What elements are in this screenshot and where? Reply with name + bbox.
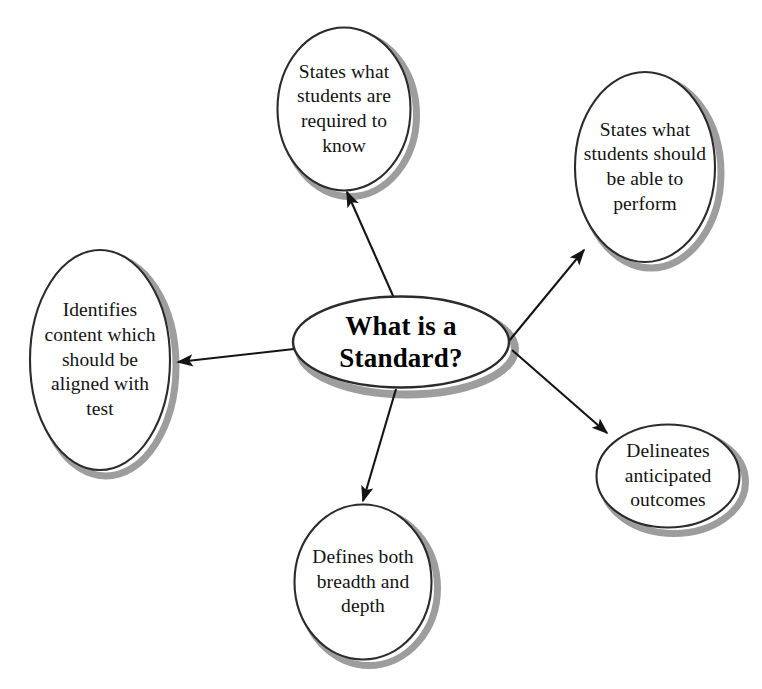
- ellipse-center-node[interactable]: [293, 297, 509, 388]
- ellipse-defines-breadth-depth[interactable]: [295, 505, 432, 660]
- ellipse-delineates-outcomes[interactable]: [597, 425, 740, 528]
- ellipse-states-able-to-perform[interactable]: [575, 72, 715, 262]
- arrow-to-states-able-to-perform[interactable]: [509, 250, 584, 341]
- arrow-to-identifies-content-aligned[interactable]: [178, 349, 294, 362]
- arrow-to-delineates-outcomes[interactable]: [512, 350, 607, 433]
- ellipse-states-required-to-know[interactable]: [278, 28, 411, 191]
- concept-map-diagram: States what students are required to kno…: [0, 0, 762, 689]
- ellipse-identifies-content-aligned[interactable]: [30, 250, 170, 470]
- arrow-to-defines-breadth-depth[interactable]: [363, 389, 396, 501]
- arrow-to-states-required-to-know[interactable]: [347, 192, 394, 298]
- diagram-canvas: [0, 0, 762, 689]
- node-outlines: [30, 28, 740, 660]
